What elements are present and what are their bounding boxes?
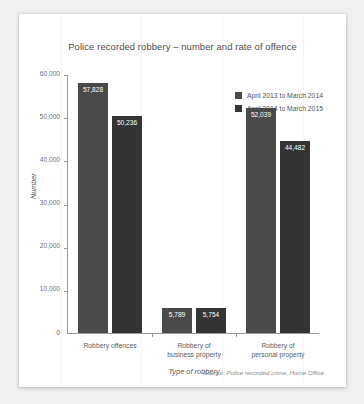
x-axis-category-label-line: personal property xyxy=(236,350,320,359)
bar-value-label: 52,039 xyxy=(251,111,271,118)
chart-card: Police recorded robbery – number and rat… xyxy=(19,14,346,387)
y-axis-tick-label: 10,000 xyxy=(40,285,60,292)
x-axis-category-label-line: Robbery of xyxy=(152,341,236,350)
bar[interactable]: 44,482 xyxy=(280,141,310,333)
x-axis-category-label-line: Robbery of xyxy=(236,341,320,350)
bar-value-label: 5,754 xyxy=(203,311,220,318)
x-axis-category-label-line: Robbery offences xyxy=(68,341,152,350)
bar-value-label: 50,236 xyxy=(117,119,137,126)
bar[interactable]: 5,754 xyxy=(196,308,226,333)
y-axis-tick-mark xyxy=(64,118,68,119)
y-axis-tick-label: 60,000 xyxy=(40,70,60,77)
chart-title: Police recorded robbery – number and rat… xyxy=(19,41,346,52)
bar-value-label: 57,828 xyxy=(83,86,103,93)
y-axis-tick-mark xyxy=(64,161,68,162)
y-axis-tick-label: 0 xyxy=(56,329,60,336)
x-axis-category-label: Robbery ofbusiness property xyxy=(152,341,236,360)
y-axis-title: Number xyxy=(29,173,38,199)
y-axis-tick-label: 40,000 xyxy=(40,156,60,163)
x-axis-category-label: Robbery offences xyxy=(68,341,152,350)
y-axis-tick-label: 50,000 xyxy=(40,113,60,120)
x-axis-group-separator xyxy=(152,333,153,337)
bar[interactable]: 52,039 xyxy=(246,108,276,333)
bar[interactable]: 57,828 xyxy=(78,83,108,333)
source-note: Source: Police recorded crime, Home Offi… xyxy=(203,369,324,376)
plot-area: 010,00020,00030,00040,00050,00060,000 57… xyxy=(67,75,319,334)
y-axis-tick-label: 20,000 xyxy=(40,242,60,249)
y-axis-tick-mark xyxy=(64,248,68,249)
x-axis-group-separator xyxy=(236,333,237,337)
bar[interactable]: 5,789 xyxy=(162,308,192,333)
y-axis-tick-mark xyxy=(64,205,68,206)
y-axis-tick-mark xyxy=(64,291,68,292)
x-axis-category-label: Robbery ofpersonal property xyxy=(236,341,320,360)
bar-value-label: 44,482 xyxy=(285,144,305,151)
bar[interactable]: 50,236 xyxy=(112,116,142,333)
bar-value-label: 5,789 xyxy=(169,311,186,318)
y-axis-tick-mark xyxy=(64,75,68,76)
x-axis-category-label-line: business property xyxy=(152,350,236,359)
scan-seam xyxy=(61,14,62,387)
y-axis-tick-label: 30,000 xyxy=(40,199,60,206)
